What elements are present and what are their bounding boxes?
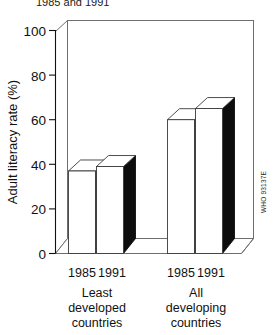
x-axis-labels: 1985 1991 1985 1991 Least developed coun… xyxy=(68,266,226,330)
y-axis-title: Adult literacy rate (%) xyxy=(5,80,20,204)
bar-front-face xyxy=(168,120,195,254)
group-label-2-line1: All xyxy=(189,286,203,300)
group-label-1-line1: Least xyxy=(82,286,113,300)
bar-front-face xyxy=(69,171,96,254)
bar-front-face xyxy=(97,167,124,254)
y-tick-label-100: 100 xyxy=(23,24,46,39)
chart-title-partial: 1985 and 1991 xyxy=(36,0,109,8)
bar-chart-svg: 1985 and 1991 100 80 60 40 xyxy=(0,0,275,335)
x-label-group2-1985: 1985 xyxy=(167,266,195,280)
who-credit-code: WHO 93137E xyxy=(260,170,267,213)
x-label-group2-1991: 1991 xyxy=(197,266,225,280)
y-tick-label-20: 20 xyxy=(31,202,46,217)
bar-all-developing-1991 xyxy=(196,98,235,254)
bar-side-face xyxy=(124,156,136,254)
y-axis: 100 80 60 40 20 0 xyxy=(23,24,55,262)
depth-edge-top xyxy=(56,21,68,32)
x-label-group1-1991: 1991 xyxy=(98,266,126,280)
bar-front-face xyxy=(196,109,223,254)
chart-figure: 1985 and 1991 100 80 60 40 xyxy=(0,0,275,335)
y-tick-label-80: 80 xyxy=(31,69,46,84)
x-label-group1-1985: 1985 xyxy=(68,266,96,280)
y-tick-label-0: 0 xyxy=(38,247,46,262)
y-tick-label-60: 60 xyxy=(31,113,46,128)
group-label-1-line3: countries xyxy=(72,316,123,330)
group-label-1-line2: developed xyxy=(68,301,126,315)
bar-side-face xyxy=(223,98,235,254)
group-label-2-line3: countries xyxy=(171,316,222,330)
group-label-2-line2: developing xyxy=(166,301,227,315)
bar-least-developed-1991 xyxy=(97,156,136,254)
y-tick-label-40: 40 xyxy=(31,158,46,173)
